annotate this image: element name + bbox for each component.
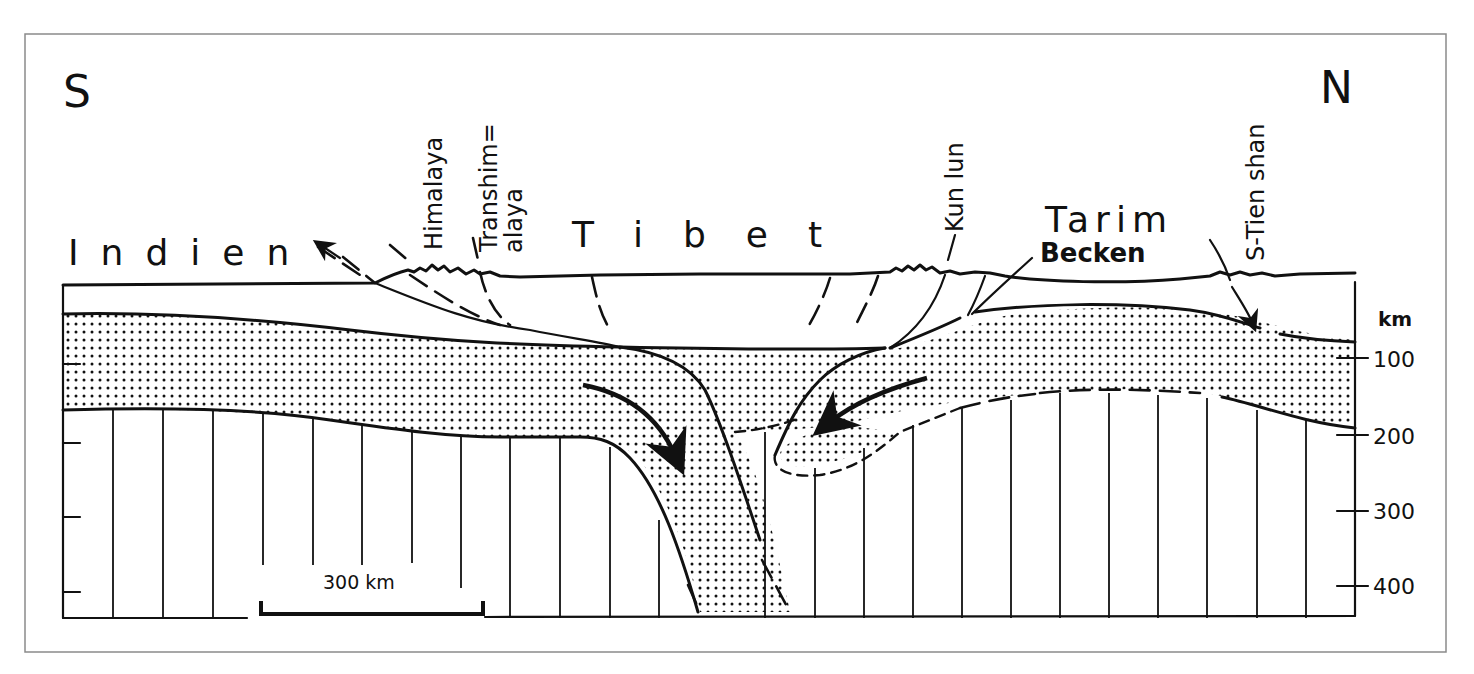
label-becken: Becken [1040,238,1146,268]
indien-thrust-1 [318,247,360,275]
depth-tick-300: 300 [1373,499,1415,524]
indien-thrust-2 [343,257,375,283]
tibet-fault-1 [592,277,612,333]
tibet-fault-3 [855,276,878,327]
scale-bar [261,601,483,614]
label-tibet: Tibet [571,214,862,255]
depth-tick-100: 100 [1373,347,1415,372]
scale-bar-label: 300 km [323,571,395,593]
section-bottom-edge [63,616,1355,618]
label-south: S [63,66,91,117]
label-north: N [1320,62,1353,113]
cross-section-diagram: S N Indien Tibet Tarim Becken Himalaya T… [0,0,1474,674]
lithosphere-band [63,308,1355,613]
kunlun-fault [890,235,955,348]
label-indien: Indien [68,232,311,273]
depth-tick-400: 400 [1373,574,1415,599]
label-tarim: Tarim [1044,199,1173,240]
depth-tick-200: 200 [1373,424,1415,449]
tibet-fault-2 [808,278,830,327]
depth-unit-label: km [1378,307,1412,331]
label-transhimalaya-1: Transhim= [475,123,503,253]
label-kunlun: Kun lun [941,142,969,232]
label-himalaya: Himalaya [420,137,448,250]
label-tienshan: S-Tien shan [1242,123,1270,261]
label-transhimalaya-2: alaya [500,188,528,253]
